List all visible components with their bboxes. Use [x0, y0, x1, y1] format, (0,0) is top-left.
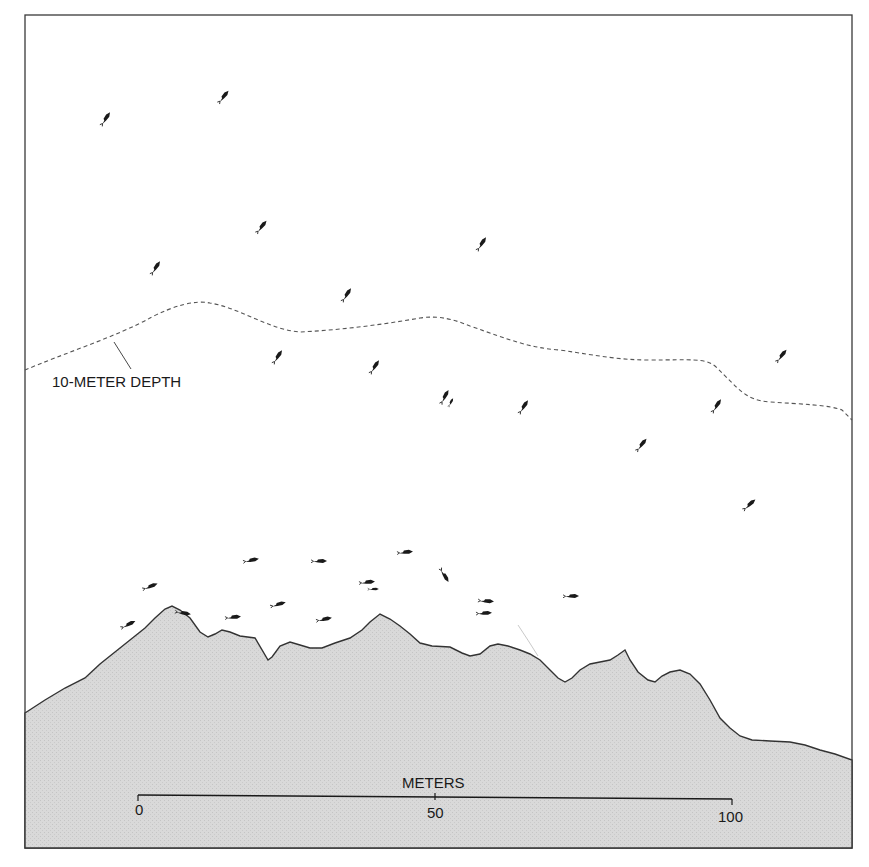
scale-tick-label-100: 100	[718, 808, 743, 825]
scale-tick-label-0: 0	[135, 801, 143, 818]
depth-contour-label: 10-METER DEPTH	[52, 373, 181, 390]
scale-tick-label-50: 50	[427, 804, 444, 821]
scale-bar-title: METERS	[402, 774, 465, 791]
reef-cross-section-diagram: 10-METER DEPTH METE	[0, 0, 869, 867]
